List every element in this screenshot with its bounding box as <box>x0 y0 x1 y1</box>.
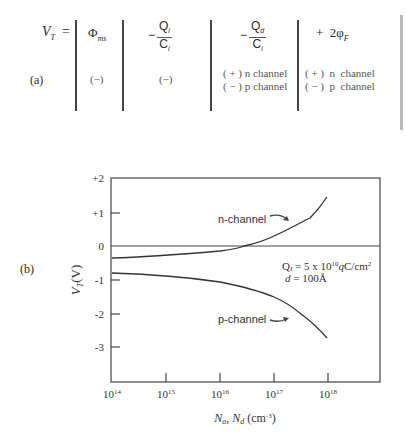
p-channel-arrow-icon <box>270 319 286 321</box>
thickness-annotation: d = 100Å <box>285 272 327 284</box>
svg-text:-1: -1 <box>95 274 104 286</box>
svg-text:-2: -2 <box>95 308 104 320</box>
n-channel-curve <box>112 197 327 258</box>
x-tick-labels: 1014 1015 1016 1017 1018 <box>103 388 338 400</box>
x-axis-title: Na, Nd (cm-3) <box>213 411 276 426</box>
y-tick-labels: +2 +1 0 -1 -2 -3 <box>92 172 104 353</box>
p-channel-label: p-channel <box>218 313 266 325</box>
svg-text:1017: 1017 <box>265 388 284 400</box>
n-channel-label: n-channel <box>218 213 266 225</box>
x-axis-ticks <box>166 373 328 382</box>
n-channel-arrow-icon <box>270 215 287 219</box>
svg-text:1015: 1015 <box>157 388 176 400</box>
svg-text:1016: 1016 <box>211 388 230 400</box>
plot-frame <box>111 178 380 382</box>
y-axis-title: VT(V) <box>68 265 85 295</box>
svg-text:1018: 1018 <box>319 388 338 400</box>
svg-text:+1: +1 <box>92 207 104 219</box>
svg-text:0: 0 <box>99 240 105 252</box>
svg-text:+2: +2 <box>92 172 104 184</box>
svg-text:-3: -3 <box>95 341 105 353</box>
svg-text:1014: 1014 <box>103 388 122 400</box>
y-axis-ticks <box>111 213 120 347</box>
vt-vs-doping-chart: +2 +1 0 -1 -2 -3 1014 1015 1016 1017 101… <box>0 0 406 440</box>
